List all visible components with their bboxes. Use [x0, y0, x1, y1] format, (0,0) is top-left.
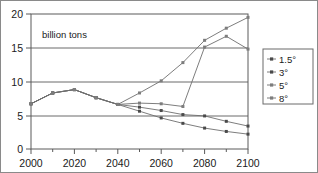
x-tick-label-2000: 2000: [19, 157, 43, 169]
legend-label-1: 3°: [279, 67, 288, 78]
data-point-marker: [181, 122, 184, 125]
legend-sample-marker-0: [270, 57, 273, 60]
data-point-marker: [95, 96, 98, 99]
x-tick-label-2080: 2080: [193, 157, 217, 169]
data-point-marker: [225, 35, 228, 38]
y-tick-label-15: 15: [11, 42, 23, 54]
data-point-marker: [160, 102, 163, 105]
data-point-marker: [247, 16, 250, 19]
data-point-marker: [247, 125, 250, 128]
data-point-marker: [73, 88, 76, 91]
x-tick-label-2020: 2020: [63, 157, 87, 169]
data-point-marker: [138, 102, 141, 105]
data-point-marker: [203, 114, 206, 117]
x-axis-tickmarks: [31, 149, 248, 154]
legend-sample-marker-2: [270, 83, 273, 86]
data-point-marker: [203, 127, 206, 130]
data-point-marker: [181, 113, 184, 116]
data-point-marker: [160, 116, 163, 119]
x-tick-label-2100: 2100: [236, 157, 260, 169]
data-point-marker: [225, 130, 228, 133]
line-chart-svg: 20 15 10 5 0: [1, 1, 318, 173]
x-axis-tick-labels: 2000 2020 2040 2060 2080 2100: [19, 157, 260, 169]
data-point-marker: [30, 102, 33, 105]
y-axis-tickmarks: [26, 14, 31, 149]
legend-label-3: 8°: [279, 93, 288, 104]
data-point-marker: [247, 133, 250, 136]
legend-sample-marker-3: [270, 96, 273, 99]
y-tick-label-5: 5: [17, 110, 23, 122]
data-point-marker: [160, 79, 163, 82]
data-point-marker: [51, 91, 54, 94]
data-point-marker: [138, 91, 141, 94]
plot-annotation-billion-tons: billion tons: [42, 29, 87, 40]
data-point-marker: [225, 120, 228, 123]
chart-legend: 1.5° 3° 5° 8°: [263, 49, 313, 104]
legend-label-2: 5°: [279, 80, 288, 91]
series-5-deg: [30, 35, 250, 108]
data-point-marker: [203, 46, 206, 49]
data-point-marker: [138, 106, 141, 109]
data-point-marker: [181, 105, 184, 108]
chart-figure: 20 15 10 5 0: [0, 0, 318, 173]
y-tick-label-0: 0: [17, 143, 23, 155]
y-tick-label-10: 10: [11, 76, 23, 88]
data-point-marker: [225, 27, 228, 30]
data-point-marker: [247, 48, 250, 51]
data-point-marker: [116, 103, 119, 106]
data-point-marker: [181, 61, 184, 64]
data-point-marker: [138, 110, 141, 113]
x-tick-label-2040: 2040: [106, 157, 130, 169]
data-point-marker: [203, 39, 206, 42]
legend-label-0: 1.5°: [279, 54, 296, 65]
chart-canvas: 20 15 10 5 0: [1, 1, 318, 173]
data-point-marker: [160, 109, 163, 112]
series-1.5-deg: [30, 88, 250, 136]
series-line: [31, 36, 248, 106]
legend-sample-marker-1: [270, 70, 273, 73]
y-tick-label-20: 20: [11, 8, 23, 20]
y-axis-tick-labels: 20 15 10 5 0: [11, 8, 23, 155]
x-tick-label-2060: 2060: [150, 157, 174, 169]
